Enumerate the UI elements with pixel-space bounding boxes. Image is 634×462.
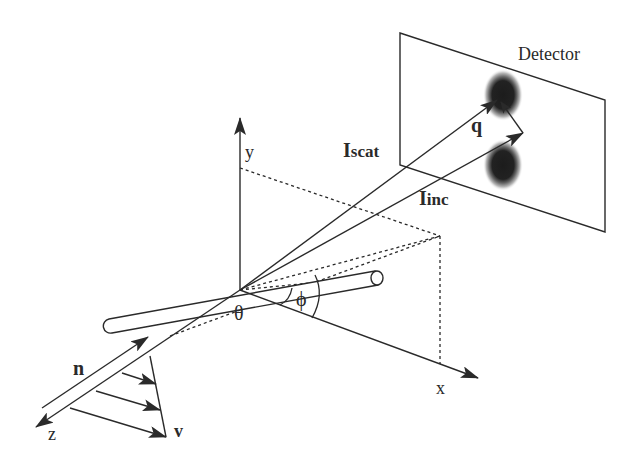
axis-y-label: y — [245, 142, 254, 162]
i-inc-sub: inc — [427, 190, 449, 209]
v-label: v — [174, 421, 183, 441]
i-scat-beam — [240, 100, 497, 290]
detector-label: Detector — [518, 44, 580, 64]
x-axis — [240, 290, 478, 378]
axis-x-label: x — [436, 378, 445, 398]
i-scat-main: I — [343, 139, 351, 161]
projection-lines — [170, 168, 440, 364]
v-envelope — [150, 356, 166, 437]
i-inc-beam — [240, 133, 523, 290]
v-arrow-1 — [122, 373, 156, 384]
axis-z-label: z — [48, 424, 56, 444]
i-scat-sub: scat — [351, 142, 380, 161]
n-vector — [42, 337, 148, 408]
v-arrow-3 — [70, 408, 166, 437]
n-label: n — [73, 357, 84, 379]
theta-label: θ — [234, 302, 244, 324]
q-label: q — [471, 114, 482, 137]
diffraction-spot-upper — [483, 69, 523, 121]
phi-label: ϕ — [296, 288, 307, 311]
i-scat-label: Iscat — [343, 139, 379, 161]
i-inc-main: I — [419, 187, 427, 209]
scattering-diagram: Detector y x z — [0, 0, 634, 462]
z-axis — [36, 290, 240, 427]
diffraction-spot-lower — [483, 139, 523, 191]
v-arrow-2 — [96, 391, 160, 410]
i-inc-label: Iinc — [419, 187, 449, 209]
